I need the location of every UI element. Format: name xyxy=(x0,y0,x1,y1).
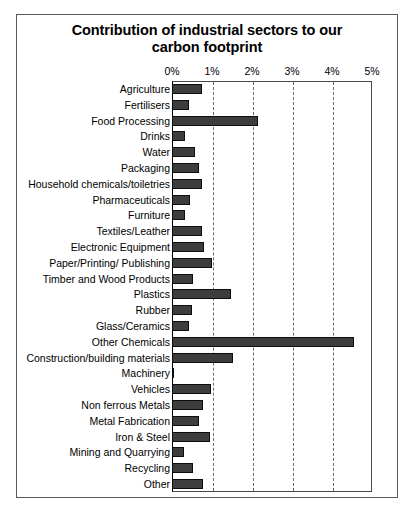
bar-rows: AgricultureFertilisersFood ProcessingDri… xyxy=(17,81,399,492)
category-label: Household chemicals/toiletries xyxy=(28,178,170,189)
bar xyxy=(172,321,189,331)
category-label: Water xyxy=(142,147,170,158)
bar-row: Machinery xyxy=(17,366,399,382)
bar xyxy=(172,400,203,410)
bar xyxy=(172,131,185,141)
category-label: Mining and Quarrying xyxy=(70,447,170,458)
category-label: Glass/Ceramics xyxy=(96,321,170,332)
bar-row: Plastics xyxy=(17,287,399,303)
bar-row: Food Processing xyxy=(17,113,399,129)
category-label: Other Chemicals xyxy=(92,336,170,347)
bar-row: Household chemicals/toiletries xyxy=(17,176,399,192)
bar xyxy=(172,368,174,378)
bar xyxy=(172,289,231,299)
bar-row: Furniture xyxy=(17,207,399,223)
bar xyxy=(172,226,202,236)
category-label: Plastics xyxy=(134,289,170,300)
category-label: Other xyxy=(144,479,170,490)
bar-row: Construction/building materials xyxy=(17,350,399,366)
category-label: Timber and Wood Products xyxy=(43,273,170,284)
bar-row: Pharmaceuticals xyxy=(17,192,399,208)
bar xyxy=(172,353,233,363)
category-label: Packaging xyxy=(121,162,170,173)
bar-row: Glass/Ceramics xyxy=(17,318,399,334)
bar xyxy=(172,463,193,473)
category-label: Construction/building materials xyxy=(26,352,170,363)
category-label: Rubber xyxy=(136,305,170,316)
category-label: Vehicles xyxy=(131,384,170,395)
category-label: Food Processing xyxy=(91,115,170,126)
x-tick-label: 2% xyxy=(244,65,259,77)
bar xyxy=(172,195,190,205)
bar xyxy=(172,416,199,426)
chart-title-line-1: Contribution of industrial sectors to ou… xyxy=(17,22,397,39)
x-axis-tick-labels: 0%1%2%3%4%5% xyxy=(17,65,397,79)
bar-row: Paper/Printing/ Publishing xyxy=(17,255,399,271)
bar-row: Iron & Steel xyxy=(17,429,399,445)
category-label: Electronic Equipment xyxy=(71,241,170,252)
bar xyxy=(172,479,203,489)
bar xyxy=(172,384,211,394)
category-label: Recycling xyxy=(124,463,170,474)
bar-row: Metal Fabrication xyxy=(17,413,399,429)
bar-row: Electronic Equipment xyxy=(17,239,399,255)
bar-row: Agriculture xyxy=(17,81,399,97)
chart-title-line-2: carbon footprint xyxy=(17,39,397,56)
bar-row: Packaging xyxy=(17,160,399,176)
bar xyxy=(172,447,184,457)
bar-row: Textiles/Leather xyxy=(17,223,399,239)
x-tick-label: 3% xyxy=(284,65,299,77)
bar xyxy=(172,163,199,173)
bar xyxy=(172,274,193,284)
chart-frame: Contribution of industrial sectors to ou… xyxy=(16,14,398,498)
bar-row: Drinks xyxy=(17,128,399,144)
category-label: Paper/Printing/ Publishing xyxy=(49,257,170,268)
x-tick-label: 4% xyxy=(324,65,339,77)
bar xyxy=(172,100,189,110)
chart-title: Contribution of industrial sectors to ou… xyxy=(17,22,397,56)
category-label: Iron & Steel xyxy=(115,431,170,442)
bar xyxy=(172,305,192,315)
category-label: Machinery xyxy=(122,368,170,379)
bar-row: Water xyxy=(17,144,399,160)
bar-row: Mining and Quarrying xyxy=(17,445,399,461)
bar-row: Rubber xyxy=(17,302,399,318)
category-label: Pharmaceuticals xyxy=(92,194,170,205)
bar xyxy=(172,147,195,157)
bar xyxy=(172,84,202,94)
category-label: Textiles/Leather xyxy=(96,226,170,237)
x-tick-label: 0% xyxy=(164,65,179,77)
category-label: Fertilisers xyxy=(124,99,170,110)
bar-row: Timber and Wood Products xyxy=(17,271,399,287)
bar xyxy=(172,432,210,442)
category-label: Non ferrous Metals xyxy=(81,400,170,411)
bar-row: Recycling xyxy=(17,460,399,476)
bar xyxy=(172,116,258,126)
category-label: Agriculture xyxy=(120,83,170,94)
category-label: Furniture xyxy=(128,210,170,221)
bar xyxy=(172,210,185,220)
bar-row: Fertilisers xyxy=(17,97,399,113)
bar-row: Other Chemicals xyxy=(17,334,399,350)
category-label: Metal Fabrication xyxy=(89,415,170,426)
bar xyxy=(172,337,354,347)
bar-row: Non ferrous Metals xyxy=(17,397,399,413)
bar-row: Vehicles xyxy=(17,381,399,397)
bar xyxy=(172,258,212,268)
x-tick-label: 1% xyxy=(204,65,219,77)
category-label: Drinks xyxy=(140,131,170,142)
bar xyxy=(172,179,202,189)
x-tick-label: 5% xyxy=(364,65,379,77)
bar-row: Other xyxy=(17,476,399,492)
bar xyxy=(172,242,204,252)
